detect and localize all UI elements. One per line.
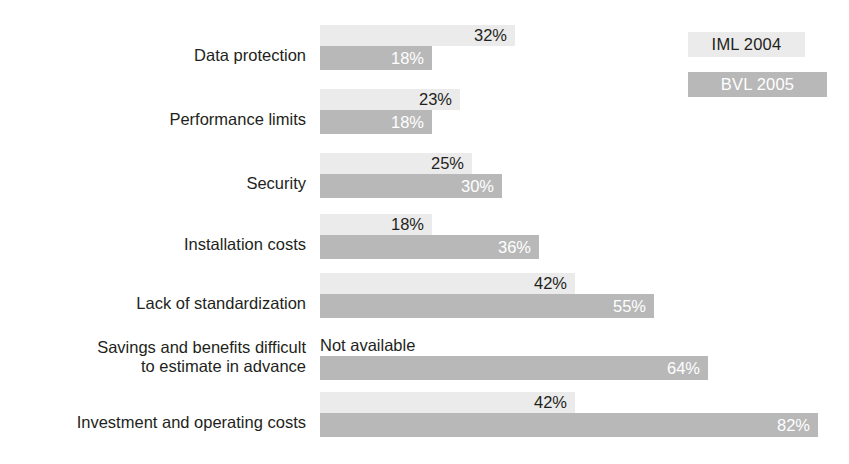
bar-iml-2004: 42%: [320, 392, 575, 413]
bar-value-label: 18%: [391, 215, 432, 234]
bar-group: 32%18%: [320, 25, 515, 70]
category-label-line: to estimate in advance: [0, 357, 306, 376]
bar-bvl-2005: 18%: [320, 46, 432, 70]
bar-value-label: 18%: [391, 49, 432, 68]
category-label: Installation costs: [0, 235, 306, 254]
bar-value-label: 25%: [431, 154, 472, 173]
bar-value-label: 32%: [474, 26, 515, 45]
bar-value-label: 18%: [391, 113, 432, 132]
bar-value-label: 64%: [667, 359, 708, 378]
bar-group: 23%18%: [320, 89, 460, 134]
category-label-line: Savings and benefits difficult: [0, 338, 306, 357]
category-label-line: Investment and operating costs: [0, 413, 306, 432]
bar-bvl-2005: 30%: [320, 174, 502, 198]
category-label: Savings and benefits difficultto estimat…: [0, 338, 306, 376]
bar-value-label: 55%: [613, 297, 654, 316]
chart-plot-area: Data protection32%18%Performance limits2…: [0, 0, 849, 464]
bar-group: 18%36%: [320, 214, 539, 259]
bar-value-label: 23%: [419, 90, 460, 109]
category-label-line: Security: [0, 174, 306, 193]
not-available-label: Not available: [320, 335, 708, 356]
bar-value-label: 36%: [498, 238, 539, 257]
bar-iml-2004: 25%: [320, 153, 472, 174]
category-label-line: Data protection: [0, 46, 306, 65]
bar-iml-2004: 32%: [320, 25, 515, 46]
bar-value-label: 30%: [461, 177, 502, 196]
bar-bvl-2005: 36%: [320, 235, 539, 259]
bar-group: 42%55%: [320, 273, 654, 318]
bar-value-label: 82%: [777, 416, 818, 435]
category-label: Data protection: [0, 46, 306, 65]
bar-bvl-2005: 55%: [320, 294, 654, 318]
bar-iml-2004: 42%: [320, 273, 575, 294]
category-label: Lack of standardization: [0, 294, 306, 313]
category-label: Security: [0, 174, 306, 193]
bar-bvl-2005: 82%: [320, 413, 818, 437]
bar-group: 42%82%: [320, 392, 818, 437]
chart-page: IML 2004 BVL 2005 Data protection32%18%P…: [0, 0, 849, 464]
bar-group: 25%30%: [320, 153, 502, 198]
category-label-line: Lack of standardization: [0, 294, 306, 313]
bar-iml-2004: 18%: [320, 214, 432, 235]
bar-value-label: 42%: [534, 274, 575, 293]
category-label-line: Performance limits: [0, 110, 306, 129]
category-label: Performance limits: [0, 110, 306, 129]
bar-value-label: 42%: [534, 393, 575, 412]
bar-iml-2004: 23%: [320, 89, 460, 110]
bar-bvl-2005: 18%: [320, 110, 432, 134]
category-label-line: Installation costs: [0, 235, 306, 254]
bar-bvl-2005: 64%: [320, 356, 708, 380]
category-label: Investment and operating costs: [0, 413, 306, 432]
bar-group: Not available64%: [320, 335, 708, 380]
